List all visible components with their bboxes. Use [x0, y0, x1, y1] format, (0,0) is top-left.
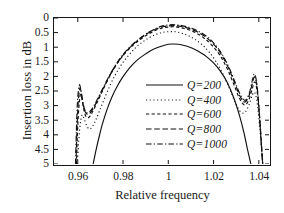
legend-label: Q=800 [184, 123, 221, 135]
y-tick-label: 2.5 [5, 85, 49, 97]
y-tick-label: 3 [5, 100, 49, 112]
legend-label: Q=200 [184, 79, 221, 91]
legend-line-sample [146, 94, 184, 106]
legend-line-sample [146, 79, 184, 91]
legend-line-sample [146, 138, 184, 150]
legend-line-sample [146, 123, 184, 135]
legend-item: Q=800 [146, 122, 242, 137]
legend-item: Q=600 [146, 107, 242, 122]
y-tick-label: 3.5 [5, 115, 49, 127]
legend: Q=200Q=400Q=600Q=800Q=1000 [146, 78, 242, 151]
y-tick-label: 0.5 [5, 27, 49, 39]
y-tick-label: 5 [5, 158, 49, 170]
x-tick-label: 1.04 [229, 171, 284, 183]
legend-item: Q=400 [146, 93, 242, 108]
y-tick-label: 1 [5, 42, 49, 54]
legend-label: Q=1000 [184, 138, 227, 150]
y-tick-label: 1.5 [5, 56, 49, 68]
y-tick-label: 0 [5, 12, 49, 24]
legend-item: Q=200 [146, 78, 242, 93]
y-tick-label: 2 [5, 71, 49, 83]
legend-label: Q=400 [184, 94, 221, 106]
y-tick-label: 4 [5, 129, 49, 141]
legend-label: Q=600 [184, 108, 221, 120]
y-tick-label: 4.5 [5, 144, 49, 156]
x-axis-tick-labels: 0.960.9811.021.04 [0, 171, 284, 189]
legend-line-sample [146, 108, 184, 120]
x-axis-label: Relative frequency [53, 188, 272, 203]
insertion-loss-chart-figure: Insertion loss in dB 00.511.522.533.544.… [0, 0, 284, 213]
legend-item: Q=1000 [146, 136, 242, 151]
